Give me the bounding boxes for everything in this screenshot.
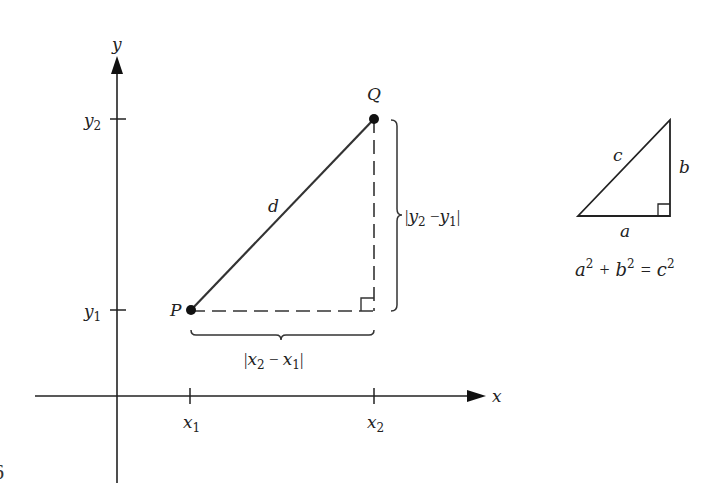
segment-pq xyxy=(191,119,374,310)
inset-right-angle-marker xyxy=(658,204,670,216)
y2-tick-label: y2 xyxy=(83,110,101,133)
vertical-leg-label: b xyxy=(679,157,690,177)
x-axis-label: x xyxy=(492,386,502,406)
horizontal-leg-label: a xyxy=(620,221,630,241)
vertical-distance-label: |y2 −y1| xyxy=(405,206,460,229)
x2-tick-label: x2 xyxy=(367,412,384,435)
inset-right-triangle xyxy=(578,120,670,216)
horizontal-brace xyxy=(191,330,374,340)
horizontal-distance-label: |x2 − x1| xyxy=(244,349,303,372)
point-p-label: P xyxy=(169,300,182,320)
hypotenuse-label: c xyxy=(613,145,623,165)
cropped-page-fragment: 6 xyxy=(0,459,4,484)
right-angle-marker xyxy=(361,298,374,311)
x-axis: x xyxy=(35,386,502,406)
y-axis-label: y xyxy=(111,34,122,54)
y-axis-arrow-icon xyxy=(111,56,123,74)
pythagorean-formula: a2+b2=c2 xyxy=(575,257,675,280)
y-axis: y xyxy=(110,34,126,483)
y1-tick-label: y1 xyxy=(83,301,101,324)
vertical-brace xyxy=(391,120,402,311)
point-q xyxy=(369,114,379,124)
point-q-label: Q xyxy=(367,84,381,104)
distance-formula-diagram: y y2 y1 x x1 x2 d P Q |x2 − x1| |y2 −y1|… xyxy=(0,0,724,503)
distance-label: d xyxy=(268,196,279,216)
x-axis-arrow-icon xyxy=(467,390,486,402)
point-p xyxy=(186,305,196,315)
x1-tick-label: x1 xyxy=(183,412,200,435)
